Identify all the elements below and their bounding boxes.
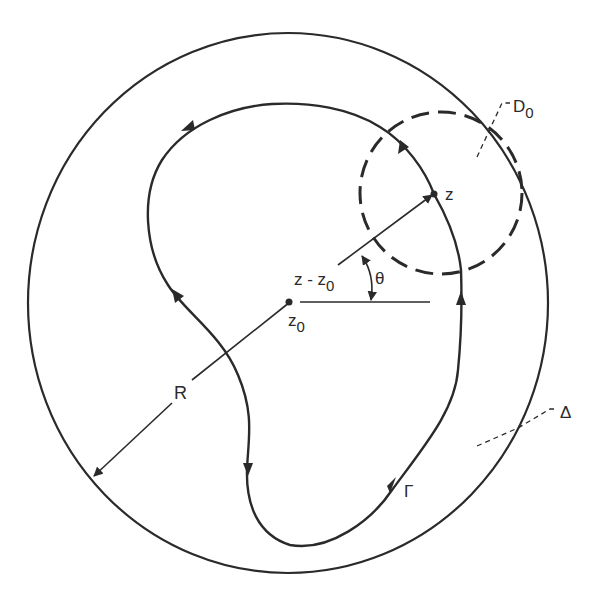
point-z0	[286, 299, 293, 306]
label-theta: θ	[375, 269, 384, 288]
label-d0: D0	[513, 97, 534, 121]
point-z	[431, 191, 438, 198]
label-gamma: Γ	[404, 482, 413, 501]
arrow-icon	[456, 291, 466, 305]
label-z: z	[445, 185, 454, 204]
label-delta: Δ	[560, 403, 571, 422]
radius-line-upper	[192, 302, 290, 380]
label-z0: z0	[288, 311, 305, 335]
leader-delta	[477, 409, 556, 446]
arrow-icon	[243, 463, 253, 476]
angle-arc-theta	[362, 256, 372, 300]
arrow-icon	[172, 289, 184, 303]
dashed-circle-d0	[360, 112, 522, 274]
label-radius: R	[174, 383, 187, 403]
label-vector: z - z0	[294, 270, 334, 294]
diagram-canvas: D0 z z - z0 θ z0 R Γ Δ	[0, 0, 600, 600]
contour-arrows	[172, 120, 466, 493]
arrow-icon	[181, 120, 195, 131]
radius-line-lower	[94, 403, 172, 476]
vector-z-minus-z0	[338, 195, 432, 265]
